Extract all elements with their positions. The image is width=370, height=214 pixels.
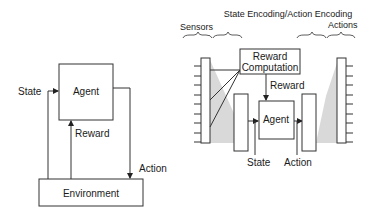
state-label-right: State <box>247 157 271 168</box>
reward-label-right: Reward <box>270 80 304 91</box>
sensors-label: Sensors <box>180 22 214 32</box>
encoding-architecture: State Encoding/Action Encoding Sensors A… <box>180 9 358 168</box>
actuator-bar <box>337 58 346 143</box>
encoding-title: State Encoding/Action Encoding <box>224 9 353 19</box>
diagram-canvas: Agent Environment State Reward Action St… <box>0 0 370 214</box>
action-arrow <box>113 88 130 178</box>
reward-label: Reward <box>75 128 109 139</box>
action-label: Action <box>139 163 167 174</box>
state-label: State <box>18 86 42 97</box>
agent-environment-loop: Agent Environment State Reward Action <box>18 64 167 206</box>
state-arrow <box>48 91 58 179</box>
action-label-right: Action <box>284 157 312 168</box>
action-encoding-bar <box>302 94 316 151</box>
sensor-bar <box>201 58 210 143</box>
actions-label: Actions <box>328 20 358 30</box>
environment-label: Environment <box>63 188 119 199</box>
agent-label-right: Agent <box>263 114 289 125</box>
agent-label: Agent <box>73 86 99 97</box>
sensors-brace-1 <box>183 32 212 38</box>
sensor-ticks <box>194 66 201 142</box>
actions-brace-1 <box>297 32 326 38</box>
action-ticks <box>346 66 353 142</box>
sensors-brace-2 <box>213 32 242 38</box>
actions-brace-2 <box>327 32 355 38</box>
state-encoding-bar <box>234 94 248 151</box>
reward-computation-line2: Computation <box>242 62 299 73</box>
action-shade <box>316 60 338 143</box>
reward-computation-line1: Reward <box>253 51 287 62</box>
